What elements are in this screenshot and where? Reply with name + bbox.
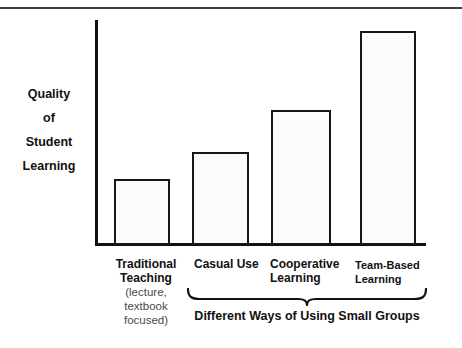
category-sub-label-0: (lecture, textbook focused)	[104, 285, 188, 327]
x-axis-category-traditional-teaching: Traditional Teaching (lecture, textbook …	[104, 258, 188, 327]
bar-casual-use	[192, 152, 249, 245]
group-caption-label: Different Ways of Using Small Groups	[186, 309, 428, 323]
category-main-label-0: Traditional Teaching	[116, 257, 177, 285]
bar-traditional-teaching	[114, 179, 170, 245]
x-axis-category-team-based-learning: Team-Based Learning	[355, 259, 435, 286]
bar-cooperative-learning	[271, 110, 331, 245]
bar-chart-figure: Quality of Student Learning Traditional …	[0, 0, 462, 348]
bar-team-based-learning	[360, 31, 416, 245]
x-axis-category-cooperative-learning: Cooperative Learning	[270, 258, 360, 285]
x-axis-category-casual-use: Casual Use	[194, 258, 264, 272]
plot-area	[0, 0, 462, 246]
group-brace-icon	[186, 288, 428, 306]
